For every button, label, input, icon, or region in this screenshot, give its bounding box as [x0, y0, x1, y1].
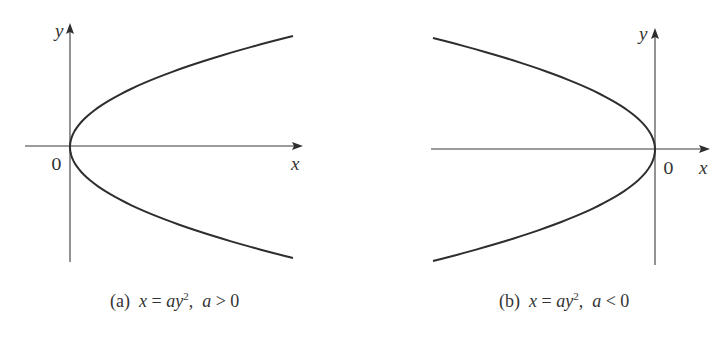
caption-a-cond-val: 0: [230, 291, 239, 311]
caption-a: (a) x = ay2, a > 0: [110, 291, 239, 312]
caption-b-prefix: (b): [499, 291, 520, 311]
caption-a-rhs: ay: [166, 291, 183, 311]
caption-a-lhs: x: [139, 291, 147, 311]
caption-b-cond-val: 0: [620, 291, 629, 311]
caption-a-sep: ,: [189, 291, 194, 311]
x-axis-label-b: x: [698, 157, 708, 178]
origin-label-b: 0: [663, 158, 674, 178]
caption-b-cond-op: <: [606, 291, 616, 311]
y-axis-label-a: y: [53, 20, 64, 41]
parabola-curve-a: [70, 36, 293, 258]
caption-a-prefix: (a): [110, 291, 130, 311]
caption-b: (b) x = ay2, a < 0: [499, 291, 629, 312]
caption-b-rhs: ay: [556, 291, 573, 311]
origin-label-a: 0: [51, 154, 62, 174]
y-axis-label-b: y: [637, 23, 648, 44]
panel-a: y 0 x: [25, 20, 303, 262]
caption-b-eq: =: [542, 291, 552, 311]
caption-b-cond-var: a: [592, 291, 601, 311]
caption-a-cond-var: a: [202, 291, 211, 311]
caption-a-cond-op: >: [216, 291, 226, 311]
x-axis-label-a: x: [290, 153, 300, 174]
caption-b-sep: ,: [579, 291, 584, 311]
caption-b-lhs: x: [529, 291, 537, 311]
panel-b: y 0 x: [431, 23, 710, 265]
caption-a-eq: =: [151, 291, 161, 311]
figure-canvas: y 0 x y 0 x: [0, 0, 728, 339]
